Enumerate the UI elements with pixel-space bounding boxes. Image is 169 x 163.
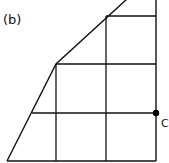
- geometry-diagram: C (b): [0, 0, 169, 163]
- figure-label: (b): [3, 12, 21, 27]
- slanted-left-edge: [7, 0, 127, 161]
- point-c-label: C: [161, 117, 169, 130]
- point-c-marker: [153, 110, 159, 116]
